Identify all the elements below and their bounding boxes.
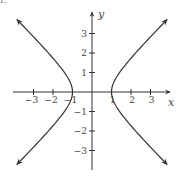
x-axis-label: x [168,96,175,109]
y-tick-label: −1 [74,107,87,117]
y-tick-label: 2 [81,48,87,58]
y-tick-label: 3 [81,29,87,39]
y-tick-label: 1 [81,68,87,78]
y-tick-label: −2 [74,126,87,136]
x-tick-label: 2 [129,95,135,105]
hyperbola-plot: −3−2−1123−3−2−1123xy [0,0,183,176]
axes [13,12,170,170]
x-tick-label: 1 [110,95,116,105]
y-axis-label: y [97,8,105,21]
x-tick-label: −1 [64,95,77,105]
x-tick-label: −3 [25,95,39,105]
x-tick-label: 3 [149,95,155,105]
x-tick-label: −2 [44,95,57,105]
y-tick-label: −3 [74,146,88,156]
tick-labels: −3−2−1123−3−2−1123xy [25,8,175,156]
